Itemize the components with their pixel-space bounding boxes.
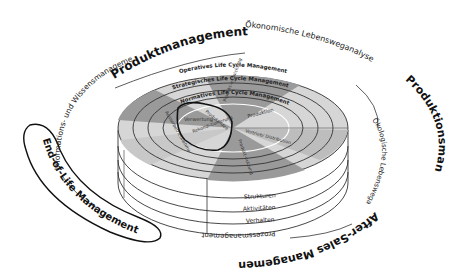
label-informations: Informations- und Wissensmanagement xyxy=(0,0,134,170)
life-cycle-diagram: Produktmanagement Produktionsmanagement … xyxy=(0,0,453,275)
label-produktmanagement: Produktmanagement xyxy=(108,24,248,81)
wedge-verwertung: Verwertung xyxy=(184,116,213,123)
label-oekonomische: Ökonomische Lebensweganalyse xyxy=(245,19,376,64)
